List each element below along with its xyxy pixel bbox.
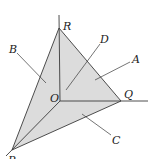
leader-b bbox=[17, 53, 46, 83]
face-label-c: C bbox=[112, 134, 121, 147]
face-label-d: D bbox=[99, 33, 109, 46]
face-label-a: A bbox=[131, 53, 140, 66]
leader-c bbox=[82, 114, 111, 135]
vertex-label-o: O bbox=[50, 92, 59, 105]
vertex-label-r: R bbox=[62, 20, 71, 33]
leader-a bbox=[95, 62, 130, 80]
tetrahedron-diagram: R O Q P A B C D bbox=[0, 0, 155, 159]
face-label-b: B bbox=[8, 43, 17, 56]
vertex-label-p: P bbox=[7, 154, 16, 159]
vertex-label-q: Q bbox=[124, 88, 133, 101]
